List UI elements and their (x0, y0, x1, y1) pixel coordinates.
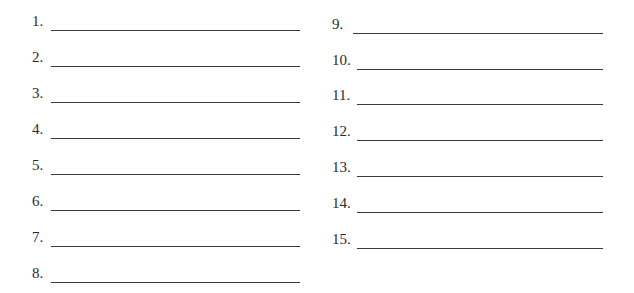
answer-blank[interactable] (357, 212, 603, 213)
answer-blank[interactable] (357, 140, 603, 141)
answer-row: 14. (332, 193, 603, 213)
answer-blank[interactable] (51, 282, 300, 283)
answer-blank[interactable] (51, 246, 300, 247)
item-number: 9. (332, 17, 343, 32)
answer-row: 9. (332, 14, 603, 34)
item-number: 5. (32, 158, 43, 173)
answer-blank[interactable] (353, 33, 603, 34)
item-number: 3. (32, 86, 43, 101)
answer-row: 15. (332, 229, 603, 249)
item-number: 1. (32, 14, 43, 29)
answer-row: 8. (32, 263, 300, 283)
item-number: 10. (332, 53, 351, 68)
answer-blank[interactable] (51, 66, 300, 67)
item-number: 7. (32, 230, 43, 245)
item-number: 11. (332, 88, 350, 103)
answer-blank[interactable] (51, 138, 300, 139)
answer-blank[interactable] (357, 69, 603, 70)
answer-row: 7. (32, 227, 300, 247)
answer-row: 2. (32, 47, 300, 67)
answer-blank[interactable] (51, 30, 300, 31)
answer-blank[interactable] (357, 248, 603, 249)
item-number: 8. (32, 266, 43, 281)
answer-row: 6. (32, 191, 300, 211)
answer-row: 3. (32, 83, 300, 103)
item-number: 2. (32, 50, 43, 65)
item-number: 12. (332, 124, 351, 139)
answer-blank[interactable] (51, 174, 300, 175)
answer-blank[interactable] (357, 176, 603, 177)
answer-row: 1. (32, 11, 300, 31)
item-number: 15. (332, 232, 351, 247)
answer-row: 4. (32, 119, 300, 139)
answer-row: 5. (32, 155, 300, 175)
item-number: 6. (32, 194, 43, 209)
answer-row: 12. (332, 121, 603, 141)
answer-row: 10. (332, 50, 603, 70)
item-number: 4. (32, 122, 43, 137)
item-number: 13. (332, 160, 351, 175)
answer-blank[interactable] (51, 210, 300, 211)
answer-row: 11. (332, 85, 603, 105)
answer-blank[interactable] (357, 104, 603, 105)
answer-blank[interactable] (51, 102, 300, 103)
item-number: 14. (332, 196, 351, 211)
answer-row: 13. (332, 157, 603, 177)
